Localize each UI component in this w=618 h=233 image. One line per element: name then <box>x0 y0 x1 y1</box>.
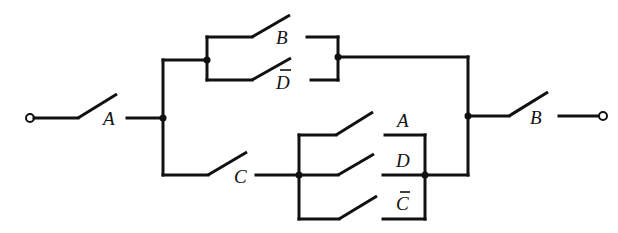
switch-d-lower: D <box>299 150 468 175</box>
switch-label: D <box>275 72 290 93</box>
switch-label: D <box>395 150 410 171</box>
switch-label: A <box>101 108 115 129</box>
switch-b-output: B <box>468 92 598 128</box>
switch-label: C <box>234 166 247 187</box>
switch-b-upper: B <box>207 15 338 48</box>
junction-dot <box>422 172 429 179</box>
switch-label: B <box>276 27 288 48</box>
switch-c: C <box>163 152 299 187</box>
switch-label: C <box>396 193 409 214</box>
output-terminal <box>599 112 607 120</box>
switch-a-input: A <box>34 94 163 129</box>
switch-label: A <box>395 110 409 131</box>
switch-cbar-lower: C <box>299 192 425 219</box>
switch-a-lower: A <box>299 110 425 135</box>
switching-circuit-diagram: A B D C A D <box>0 0 618 233</box>
switch-dbar-upper: D <box>207 58 338 93</box>
switch-label: B <box>530 107 542 128</box>
